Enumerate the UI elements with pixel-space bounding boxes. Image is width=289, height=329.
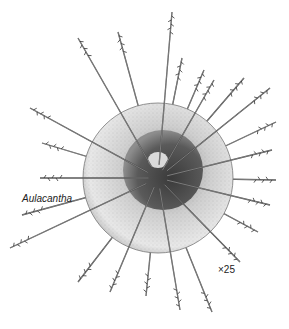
aulacantha-drawing [0, 0, 289, 329]
illustration-figure: Aulacantha ×25 [0, 0, 289, 329]
magnification-label: ×25 [218, 264, 235, 275]
species-label: Aulacantha [22, 193, 72, 204]
